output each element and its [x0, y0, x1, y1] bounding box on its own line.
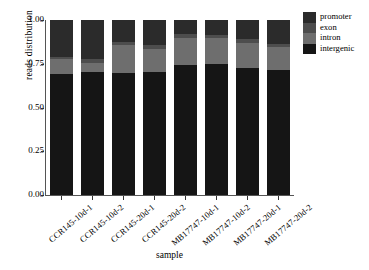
- y-tick-label: 0.75: [10, 59, 44, 68]
- bar-segment-promoter: [267, 20, 290, 44]
- bar-segment-promoter: [236, 20, 259, 39]
- bar-segment-intron: [205, 38, 228, 63]
- stacked-bar[interactable]: [50, 20, 73, 195]
- legend-label-promoter[interactable]: promoter: [320, 11, 354, 22]
- bar-slot: [201, 20, 232, 195]
- bar-group: [46, 20, 294, 195]
- stacked-bar[interactable]: [143, 20, 166, 195]
- y-tick-label: 0.50: [10, 103, 44, 112]
- x-tick-label: MB17747-20d-2: [263, 202, 315, 248]
- stacked-bar[interactable]: [81, 20, 104, 195]
- bar-slot: [139, 20, 170, 195]
- bar-segment-intron: [267, 47, 290, 70]
- legend-label-exon[interactable]: exon: [320, 22, 354, 33]
- stacked-bar[interactable]: [205, 20, 228, 195]
- legend-swatch-exon: [303, 23, 316, 34]
- bar-segment-promoter: [112, 20, 135, 42]
- bar-segment-intergenic: [143, 72, 166, 195]
- bar-segment-promoter: [81, 20, 104, 59]
- x-label-slot: CCR145-10d-2: [76, 200, 107, 252]
- bar-segment-intergenic: [236, 68, 259, 195]
- x-axis-labels: CCR145-10d-1CCR145-10d-2CCR145-20d-1CCR1…: [45, 200, 294, 252]
- x-label-slot: CCR145-20d-1: [107, 200, 138, 252]
- y-tick-mark: [41, 151, 44, 152]
- bar-segment-intergenic: [81, 72, 104, 195]
- bar-segment-intergenic: [205, 64, 228, 195]
- stacked-bar[interactable]: [112, 20, 135, 195]
- bar-segment-promoter: [174, 20, 197, 34]
- stacked-bar[interactable]: [174, 20, 197, 195]
- bar-slot: [46, 20, 77, 195]
- bar-slot: [108, 20, 139, 195]
- x-label-slot: MB17747-20d-1: [232, 200, 263, 252]
- legend-label-list: promoterexonintronintergenic: [320, 11, 354, 53]
- legend-swatch-promoter: [303, 12, 316, 23]
- legend-swatch-intergenic: [303, 44, 316, 55]
- y-tick-label: 0.00: [10, 190, 44, 199]
- bar-segment-intergenic: [50, 74, 73, 195]
- bar-segment-intergenic: [174, 65, 197, 195]
- y-tick-mark: [41, 20, 44, 21]
- legend-label-intron[interactable]: intron: [320, 32, 354, 43]
- x-label-slot: CCR145-10d-1: [45, 200, 76, 252]
- plot-area: [45, 20, 294, 196]
- bar-segment-intron: [236, 43, 259, 68]
- bar-segment-intergenic: [267, 70, 290, 195]
- bar-segment-intron: [143, 49, 166, 72]
- y-tick-mark: [41, 108, 44, 109]
- bar-slot: [263, 20, 294, 195]
- legend-label-intergenic[interactable]: intergenic: [320, 43, 354, 54]
- bar-segment-intron: [112, 45, 135, 72]
- stacked-bar-chart: reads distribution 0.000.250.500.751.00 …: [0, 0, 369, 270]
- bar-slot: [77, 20, 108, 195]
- stacked-bar[interactable]: [267, 20, 290, 195]
- y-tick-label: 1.00: [10, 15, 44, 24]
- y-axis-ticks: 0.000.250.500.751.00: [0, 0, 44, 270]
- bar-segment-intergenic: [112, 73, 135, 196]
- bar-segment-promoter: [50, 20, 73, 57]
- bar-segment-intron: [174, 38, 197, 65]
- bar-segment-promoter: [143, 20, 166, 45]
- bar-segment-promoter: [205, 20, 228, 35]
- x-axis-title: sample: [45, 250, 294, 260]
- y-tick-label: 0.25: [10, 146, 44, 155]
- x-label-slot: CCR145-20d-2: [138, 200, 169, 252]
- bar-segment-intron: [50, 59, 73, 74]
- stacked-bar[interactable]: [236, 20, 259, 195]
- bar-segment-intron: [81, 63, 104, 72]
- legend-swatch-intron: [303, 33, 316, 44]
- x-label-slot: MB17747-10d-2: [201, 200, 232, 252]
- x-label-slot: MB17747-10d-1: [170, 200, 201, 252]
- bar-slot: [170, 20, 201, 195]
- legend-swatch-stack: [303, 12, 316, 54]
- y-tick-mark: [41, 195, 44, 196]
- bar-slot: [232, 20, 263, 195]
- y-tick-mark: [41, 64, 44, 65]
- x-label-slot: MB17747-20d-2: [263, 200, 294, 252]
